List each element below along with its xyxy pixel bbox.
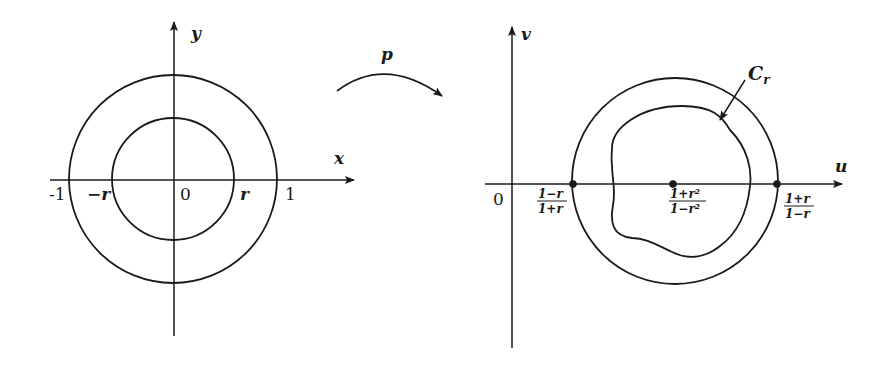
origin-label: 0 — [493, 189, 504, 209]
mapping-label: p — [381, 44, 393, 64]
curve-label-subscript: r — [763, 73, 771, 87]
tick-neg-r: −r — [87, 184, 111, 204]
u-axis-label: u — [835, 156, 847, 176]
fraction-right-denominator: 1−r — [785, 207, 811, 221]
left-panel: x y -1 −r 0 r 1 — [49, 22, 354, 336]
curve-label-main: C — [748, 62, 763, 84]
fraction-right-numerator: 1+r — [785, 192, 811, 206]
mapping-arrow: p — [337, 44, 442, 96]
fraction-center: 1+r² 1−r² — [669, 187, 706, 216]
fraction-left-denominator: 1+r — [538, 202, 564, 216]
curve-label: Cr — [748, 62, 771, 87]
fraction-left-numerator: 1−r — [538, 187, 564, 201]
x-axis-label: x — [333, 148, 345, 168]
v-axis-label: v — [521, 24, 532, 44]
image-region-c-r — [612, 106, 751, 257]
unit-circle — [69, 75, 277, 283]
inner-disk-shaded — [112, 118, 234, 240]
fraction-left: 1−r 1+r — [537, 187, 567, 216]
curve-pointer-arrow — [720, 80, 745, 120]
conformal-map-diagram: x y -1 −r 0 r 1 p u v 0 1−r 1+r 1+r² — [0, 0, 888, 367]
curved-arrow-icon — [337, 74, 442, 96]
point-right — [773, 180, 781, 188]
y-axis-label: y — [190, 23, 202, 43]
tick-one: 1 — [285, 184, 296, 204]
point-left — [569, 180, 577, 188]
tick-neg-one: -1 — [49, 184, 66, 204]
tick-zero: 0 — [180, 184, 191, 204]
fraction-center-numerator: 1+r² — [670, 187, 700, 201]
fraction-center-denominator: 1−r² — [670, 202, 700, 216]
tick-r: r — [240, 184, 250, 204]
right-panel: u v 0 1−r 1+r 1+r² 1−r² 1+r 1−r Cr — [485, 24, 847, 348]
fraction-right: 1+r 1−r — [784, 192, 814, 221]
